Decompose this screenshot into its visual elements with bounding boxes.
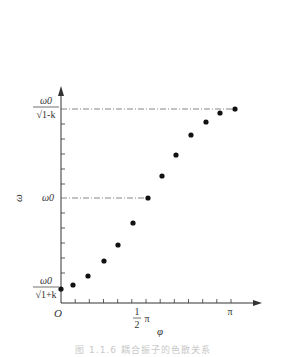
figure-caption: 图 1.1.6 耦合振子的色散关系 <box>0 343 286 356</box>
dispersion-chart: ω0 √1-k ω0 ω0 √1+k ω O 1 2 π π φ <box>0 0 286 340</box>
y-axis-label: ω <box>12 194 24 202</box>
y-top-numerator: ω0 <box>40 95 52 106</box>
x-axis-label: φ <box>157 325 163 337</box>
origin-label: O <box>54 307 62 319</box>
y-ticks <box>61 124 65 273</box>
half-pi-numerator: 1 <box>135 306 140 317</box>
pi-label: π <box>227 306 232 317</box>
x-ticks <box>75 299 231 303</box>
y-mid-label: ω0 <box>42 192 54 203</box>
y-top-denominator: √1-k <box>37 109 56 120</box>
y-bottom-denominator: √1+k <box>35 289 56 300</box>
y-axis-arrow-icon <box>58 86 64 96</box>
y-bottom-numerator: ω0 <box>40 275 52 286</box>
half-pi-denominator: 2 <box>135 319 140 330</box>
data-points <box>58 106 237 291</box>
half-pi-symbol: π <box>144 313 149 324</box>
x-axis-arrow-icon <box>253 300 262 306</box>
